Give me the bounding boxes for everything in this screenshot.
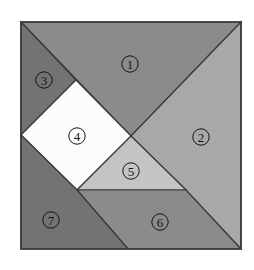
piece-label-text-2: 2	[198, 130, 205, 145]
piece-label-text-6: 6	[157, 215, 164, 230]
tangram-svg: 1234567	[0, 0, 254, 270]
tangram-figure: 1234567	[0, 0, 254, 270]
piece-label-text-4: 4	[74, 129, 81, 144]
piece-label-text-7: 7	[48, 213, 55, 228]
piece-label-text-3: 3	[41, 73, 48, 88]
piece-label-text-1: 1	[127, 57, 134, 72]
piece-label-text-5: 5	[128, 164, 135, 179]
